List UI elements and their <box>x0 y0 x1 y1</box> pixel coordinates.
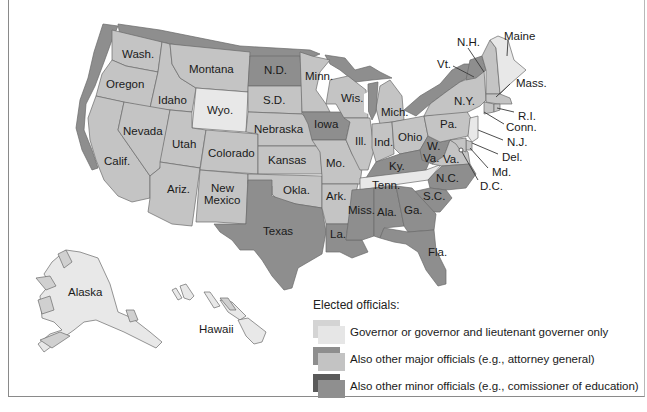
hawaii-island-molokai[interactable] <box>204 292 220 308</box>
legend-swatch-medium <box>313 347 345 371</box>
lake-michigan <box>364 92 368 114</box>
legend-item-major-officials: Also other major officials (e.g., attorn… <box>313 345 643 372</box>
callout-vt: Vt. <box>437 58 451 70</box>
map-shadow-great-lakes <box>325 55 392 82</box>
hawaii-island-kauai[interactable] <box>172 288 182 300</box>
legend-swatch-light <box>313 320 345 344</box>
callout-del: Del. <box>502 151 522 163</box>
callout-nj: N.J. <box>507 136 527 148</box>
label-utah: Utah <box>172 138 196 150</box>
label-nebraska: Nebraska <box>254 123 304 135</box>
leader-md <box>470 148 488 168</box>
callout-nh: N.H. <box>457 36 480 48</box>
label-nevada: Nevada <box>123 125 163 137</box>
label-hawaii: Hawaii <box>199 323 234 335</box>
label-washington: Wash. <box>122 48 154 60</box>
label-south-dakota: S.D. <box>263 94 285 106</box>
label-alaska: Alaska <box>68 286 103 298</box>
label-north-carolina: N.C. <box>436 172 459 184</box>
label-arizona: Ariz. <box>167 183 190 195</box>
label-missouri: Mo. <box>326 157 345 169</box>
label-arkansas: Ark. <box>326 190 346 202</box>
callout-conn: Conn. <box>506 121 537 133</box>
label-tennessee: Tenn. <box>372 179 400 191</box>
legend-label-minor-officials: Also other minor officials (e.g., comiss… <box>350 380 639 392</box>
label-indiana: Ind. <box>374 136 393 148</box>
label-texas: Texas <box>263 225 293 237</box>
legend-label-governor-only: Governor or governor and lieutenant gove… <box>350 326 608 338</box>
label-mississippi: Miss. <box>348 204 375 216</box>
state-new-jersey[interactable] <box>468 116 478 142</box>
label-louisiana: La. <box>330 228 346 240</box>
dc-marker-icon <box>459 148 463 152</box>
label-california: Calif. <box>104 155 130 167</box>
label-florida: Fla. <box>428 246 447 258</box>
label-kansas: Kansas <box>268 154 307 166</box>
label-west-virginia-va: Va. <box>423 152 439 164</box>
label-wisconsin: Wis. <box>341 92 363 104</box>
leader-del <box>472 143 498 154</box>
legend-item-minor-officials: Also other minor officials (e.g., comiss… <box>313 372 643 399</box>
label-iowa: Iowa <box>314 118 339 130</box>
label-pennsylvania: Pa. <box>440 118 457 130</box>
callout-dc: D.C. <box>480 180 503 192</box>
label-minnesota: Minn. <box>305 70 333 82</box>
legend: Elected officials: Governor or governor … <box>313 298 643 399</box>
state-minnesota[interactable] <box>300 52 330 112</box>
legend-label-major-officials: Also other major officials (e.g., attorn… <box>350 353 595 365</box>
label-mexico: Mexico <box>204 194 240 206</box>
label-oklahoma: Okla. <box>283 184 310 196</box>
label-georgia: Ga. <box>404 204 423 216</box>
label-west-virginia-w: W. <box>427 140 440 152</box>
legend-swatch-dark <box>313 374 345 398</box>
label-new: New <box>211 182 235 194</box>
legend-item-governor-only: Governor or governor and lieutenant gove… <box>313 318 643 345</box>
legend-title: Elected officials: <box>313 298 643 312</box>
label-kentucky: Ky. <box>389 160 405 172</box>
leader-nj <box>478 130 503 140</box>
label-colorado: Colorado <box>208 147 255 159</box>
callout-mass: Mass. <box>516 77 547 89</box>
label-illinois: Ill. <box>355 135 367 147</box>
state-connecticut[interactable] <box>484 102 494 114</box>
label-alabama: Ala. <box>377 206 397 218</box>
label-michigan: Mich. <box>381 106 408 118</box>
label-idaho: Idaho <box>158 94 187 106</box>
label-virginia: Va. <box>443 153 459 165</box>
label-new-york: N.Y. <box>454 95 475 107</box>
state-delaware[interactable] <box>466 140 472 150</box>
leader-conn <box>484 112 504 124</box>
label-north-dakota: N.D. <box>264 64 287 76</box>
label-oregon: Oregon <box>106 78 144 90</box>
label-montana: Montana <box>189 63 234 75</box>
label-ohio: Ohio <box>398 131 422 143</box>
callout-maine: Maine <box>504 30 535 42</box>
callout-md: Md. <box>492 166 511 178</box>
hawaii-island-big[interactable] <box>238 318 266 344</box>
label-wyoming: Wyo. <box>207 104 233 116</box>
state-massachusetts[interactable] <box>486 94 512 104</box>
label-south-carolina: S.C. <box>423 190 445 202</box>
state-michigan-lake-shadow <box>368 82 378 120</box>
